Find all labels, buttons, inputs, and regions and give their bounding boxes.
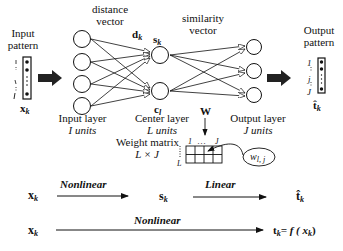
label-pattern: pattern	[3, 39, 43, 51]
flow-row1-x: xk	[28, 189, 38, 205]
label-weight-matrix-title: Weight matrix	[116, 136, 178, 148]
label-output: Output	[297, 24, 341, 36]
out-index-1: 1	[307, 57, 312, 69]
label-input-layer: Input layer I units	[55, 112, 110, 136]
out-index-J: J	[307, 86, 311, 98]
input-pattern-vector	[14, 57, 31, 99]
label-vector: vector	[88, 15, 132, 27]
label-pattern-2: pattern	[297, 36, 341, 48]
center-output-connections	[170, 46, 245, 96]
output-pattern-vector	[311, 58, 325, 93]
label-similarity: similarity	[178, 12, 228, 24]
output-arrow	[267, 70, 291, 86]
label-w-lj: wl, j	[250, 151, 265, 166]
label-x-k: xk	[20, 102, 30, 118]
matrix-row-L: L	[177, 158, 181, 170]
label-output-layer: Output layer J units	[228, 112, 288, 136]
flow-row1-linear: Linear	[205, 178, 236, 190]
label-output-units: J units	[228, 124, 288, 136]
label-input-units: I units	[55, 124, 110, 136]
label-W: W	[200, 105, 211, 117]
label-s-k: sk	[153, 33, 161, 49]
matrix-col-1: 1	[188, 136, 192, 148]
label-distance-vector: distance vector	[88, 3, 132, 27]
label-weight-matrix-dims: L × J	[116, 148, 178, 160]
label-output-layer-title: Output layer	[228, 112, 288, 124]
flow-row1-nonlinear: Nonlinear	[60, 178, 106, 190]
label-t-hat-k: t̂k	[313, 99, 321, 115]
flow-row2-result: tk= f ( xk)	[273, 224, 316, 240]
label-input-pattern: Input pattern	[3, 27, 43, 51]
flow-row2-nonlinear: Nonlinear	[134, 214, 180, 226]
label-center-layer-title: Center layer	[132, 112, 192, 124]
input-center-connections	[91, 39, 150, 106]
label-weight-matrix: Weight matrix L × J	[116, 136, 178, 160]
label-input-layer-title: Input layer	[55, 112, 110, 124]
label-similarity-vector: similarity vector	[178, 12, 228, 36]
label-vector-2: vector	[178, 24, 228, 36]
input-arrow	[38, 70, 62, 86]
label-center-units: L units	[132, 124, 192, 136]
label-output-pattern: Output pattern	[297, 24, 341, 48]
matrix-col-J: J	[215, 136, 219, 148]
label-d-k: dk	[132, 28, 142, 44]
matrix-col-dots: …	[197, 135, 206, 147]
flow-row1-t-hat: t̂k	[296, 190, 304, 206]
label-center-layer: Center layer L units	[132, 112, 192, 136]
output-layer-nodes	[247, 40, 262, 103]
input-layer-nodes	[74, 31, 91, 115]
label-input: Input	[3, 27, 43, 39]
out-index-j: j	[308, 73, 311, 85]
flow-row1-s: sk	[159, 190, 168, 206]
flow-row2-x: xk	[28, 224, 38, 240]
weight-matrix-grid	[180, 146, 222, 163]
label-distance: distance	[88, 3, 132, 15]
center-layer-nodes	[152, 47, 169, 100]
